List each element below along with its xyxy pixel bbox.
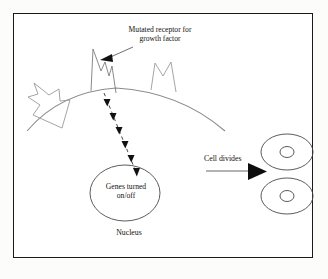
daughter-cell-bottom	[261, 178, 313, 214]
cell-membrane-arc	[27, 88, 225, 131]
genes-turned-on-off-label: Genes turned on/off	[92, 183, 160, 200]
mutated-receptor-icon	[91, 49, 116, 93]
mutated-receptor-label: Mutated receptor for growth factor	[108, 26, 212, 43]
normal-receptor-icon-left	[28, 83, 70, 128]
label-pointer-arrow	[100, 54, 113, 62]
cell-divides-label: Cell divides	[204, 155, 266, 164]
nucleus-label: Nucleus	[96, 229, 162, 238]
cell-division-arrow-head	[248, 163, 267, 180]
diagram-page: Mutated receptor for growth factor Genes…	[0, 0, 328, 279]
daughter-cell-top	[261, 134, 313, 170]
normal-receptor-icon-right	[151, 62, 176, 92]
